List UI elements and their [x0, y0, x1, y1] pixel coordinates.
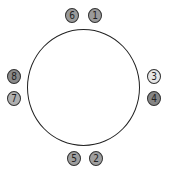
seat-label: 6 [69, 11, 75, 21]
seat-label: 2 [93, 154, 99, 164]
seat-badge-3: 3 [147, 69, 161, 84]
seat-badge-5: 5 [67, 151, 81, 166]
table-circle [27, 29, 140, 146]
seat-label: 4 [151, 94, 157, 104]
seat-label: 7 [11, 94, 17, 104]
seat-label: 1 [92, 11, 98, 21]
seat-label: 5 [71, 154, 77, 164]
seat-label: 3 [151, 72, 157, 82]
seat-badge-7: 7 [7, 91, 21, 106]
seat-badge-8: 8 [7, 69, 21, 84]
seat-badge-1: 1 [88, 8, 102, 23]
seat-label: 8 [11, 72, 17, 82]
seat-badge-2: 2 [89, 151, 103, 166]
seat-badge-6: 6 [65, 8, 79, 23]
seat-badge-4: 4 [147, 91, 161, 106]
